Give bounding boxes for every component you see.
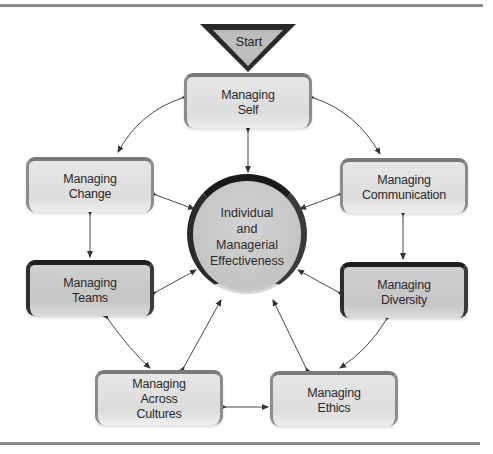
- arrow-teams-center: [156, 270, 196, 292]
- node-managing-ethics: Managing Ethics: [270, 371, 398, 426]
- node-label: Managing Change: [63, 172, 116, 202]
- bottom-rule: [0, 442, 480, 445]
- node-label: Managing Diversity: [377, 278, 430, 308]
- arrow-change-center: [156, 195, 194, 209]
- arrow-diversity-ethics: [340, 320, 386, 368]
- arrow-communication-center: [300, 195, 338, 209]
- node-managing-self: Managing Self: [184, 73, 312, 128]
- arrow-diversity-center: [298, 270, 338, 292]
- arrow-ethics-center: [273, 300, 306, 368]
- node-label: Managing Teams: [63, 276, 116, 306]
- node-managing-change: Managing Change: [26, 157, 154, 212]
- node-label: Managing Ethics: [307, 386, 360, 416]
- arrow-self-change: [118, 98, 182, 152]
- node-label: Managing Across Cultures: [132, 377, 185, 422]
- node-label: Managing Communication: [362, 173, 446, 203]
- node-managing-communication: Managing Communication: [340, 158, 468, 213]
- node-managing-diversity: Managing Diversity: [340, 262, 468, 318]
- node-label: Managing Self: [221, 88, 274, 118]
- arrow-cultures-center: [184, 300, 221, 367]
- node-managing-across-cultures: Managing Across Cultures: [95, 370, 223, 425]
- node-managing-teams: Managing Teams: [26, 260, 154, 316]
- arrow-self-communication: [314, 98, 380, 154]
- start-label: Start: [229, 35, 269, 49]
- arrow-teams-cultures: [108, 319, 150, 368]
- center-circle-effectiveness: Individual and Managerial Effectiveness: [187, 174, 307, 294]
- center-label: Individual and Managerial Effectiveness: [210, 205, 284, 269]
